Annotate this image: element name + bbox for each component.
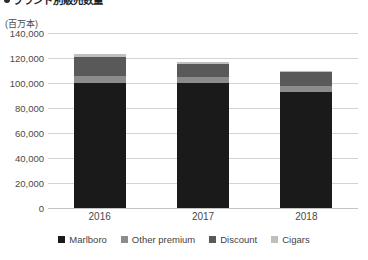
legend-item-cigars[interactable]: Cigars (271, 234, 309, 245)
y-tick-label: 20,000 (15, 178, 44, 189)
y-tick-label: 140,000 (10, 28, 44, 39)
bullet-icon (4, 0, 10, 3)
legend-label: Discount (220, 234, 257, 245)
y-tick-label: 80,000 (15, 103, 44, 114)
legend-item-other-premium[interactable]: Other premium (121, 234, 195, 245)
legend-swatch-icon (58, 236, 65, 243)
y-tick-label: 60,000 (15, 128, 44, 139)
bar-segment-discount[interactable] (280, 72, 332, 85)
x-tick-label-2017: 2017 (173, 211, 233, 222)
y-axis-tick-labels: 020,00040,00060,00080,000100,000120,0001… (0, 33, 44, 208)
chart-title: ブランド別販売数量 (4, 0, 103, 6)
bar-segment-discount[interactable] (177, 64, 229, 77)
legend-swatch-icon (209, 236, 216, 243)
y-tick-label: 100,000 (10, 78, 44, 89)
x-axis-tick-labels: 201620172018 (48, 211, 358, 227)
x-axis-line (48, 208, 358, 209)
chart-legend: MarlboroOther premiumDiscountCigars (0, 234, 368, 245)
legend-label: Other premium (132, 234, 195, 245)
legend-item-discount[interactable]: Discount (209, 234, 257, 245)
y-tick-label: 120,000 (10, 53, 44, 64)
x-tick-label-2018: 2018 (276, 211, 336, 222)
legend-swatch-icon (121, 236, 128, 243)
bar-segment-marlboro[interactable] (280, 92, 332, 208)
gridline (48, 33, 358, 34)
bar-segment-discount[interactable] (74, 57, 126, 76)
bar-group-2017[interactable] (177, 62, 229, 208)
bar-group-2018[interactable] (280, 71, 332, 209)
bar-segment-marlboro[interactable] (177, 83, 229, 208)
y-tick-label: 40,000 (15, 153, 44, 164)
legend-label: Marlboro (69, 234, 107, 245)
y-tick-label: 0 (39, 203, 44, 214)
legend-label: Cigars (282, 234, 309, 245)
chart-container: ブランド別販売数量 (百万本) 020,00040,00060,00080,00… (0, 0, 368, 260)
bar-segment-marlboro[interactable] (74, 83, 126, 208)
bar-segment-other-premium[interactable] (74, 76, 126, 84)
legend-item-marlboro[interactable]: Marlboro (58, 234, 107, 245)
plot-area (48, 33, 358, 208)
x-tick-label-2016: 2016 (70, 211, 130, 222)
legend-swatch-icon (271, 236, 278, 243)
chart-title-text: ブランド別販売数量 (13, 0, 103, 6)
bar-group-2016[interactable] (74, 54, 126, 208)
